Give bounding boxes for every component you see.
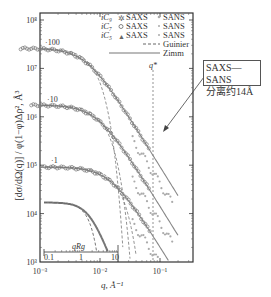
y-tick-labels: 10⁸ 10⁷ 10⁶ 10⁵ 10⁴ 10³ bbox=[26, 16, 37, 267]
sans-point bbox=[148, 167, 150, 169]
sans-point bbox=[171, 241, 173, 243]
sans-point bbox=[155, 213, 157, 215]
sans-point bbox=[162, 232, 164, 234]
offset-10: ·10 bbox=[47, 95, 58, 104]
legend-zimm: Zimm bbox=[163, 48, 184, 58]
sans-point bbox=[144, 155, 146, 157]
y-axis-label: [dσ/dΩ(q)] / φ(1−φ)Δρ², Å³ bbox=[13, 66, 24, 226]
sans-point bbox=[137, 192, 139, 194]
y-tick-1e5: 10⁵ bbox=[26, 161, 37, 170]
sans-point bbox=[133, 140, 135, 142]
sans-point bbox=[142, 234, 144, 236]
sans-point bbox=[142, 153, 144, 155]
x-tick-1e-2: 10⁻² bbox=[93, 267, 108, 276]
sans-point bbox=[171, 201, 173, 203]
sans-point bbox=[132, 135, 134, 137]
sans-point bbox=[144, 195, 146, 197]
sans-point bbox=[160, 227, 162, 229]
sans-point bbox=[159, 220, 161, 222]
sans-point bbox=[133, 223, 135, 225]
sans-point bbox=[132, 218, 134, 220]
sans-point bbox=[155, 253, 157, 255]
sans-point bbox=[150, 212, 152, 214]
sans-point bbox=[146, 241, 148, 243]
inset-tick-0.1: 0.1 bbox=[44, 253, 54, 262]
sans-point bbox=[169, 196, 171, 198]
y-tick-1e8: 10⁸ bbox=[26, 16, 37, 25]
x-tick-1e-3: 10⁻³ bbox=[33, 267, 48, 276]
sans-point bbox=[142, 193, 144, 195]
sans-point bbox=[157, 215, 159, 217]
zimm-fit-line bbox=[40, 49, 178, 196]
annotation-arrow bbox=[166, 77, 204, 128]
sans-point bbox=[137, 234, 139, 236]
sans-point bbox=[162, 192, 164, 194]
inset-guinier-curve bbox=[44, 203, 97, 251]
offset-1: ·1 bbox=[51, 156, 58, 165]
sans-point bbox=[146, 200, 148, 202]
sans-point bbox=[160, 187, 162, 189]
sans-point bbox=[168, 233, 170, 235]
circle-marker-icon bbox=[119, 25, 123, 29]
legend-saxs-3: SAXS bbox=[126, 30, 148, 40]
sans-point bbox=[157, 175, 159, 177]
scattering-chart: 10⁸ 10⁷ 10⁶ 10⁵ 10⁴ 10³ 10⁻³ 10⁻² 10⁻¹ q… bbox=[0, 0, 271, 297]
sans-point bbox=[157, 256, 159, 258]
sans-point bbox=[135, 229, 137, 231]
triangle-marker-icon: ▲ bbox=[118, 33, 125, 41]
guinier-fit-line bbox=[40, 49, 123, 247]
sans-point bbox=[135, 187, 137, 189]
x-ticks bbox=[100, 13, 160, 262]
sans-marker-icon bbox=[158, 25, 160, 27]
sans-point bbox=[150, 253, 152, 255]
legend: iC₉ iC₇ iC₅ ✲ ▲ SAXS SAXS SAXS SANS SANS… bbox=[101, 12, 189, 58]
inset-tick-1: 1 bbox=[79, 253, 83, 262]
sans-point bbox=[169, 235, 171, 237]
y-tick-1e7: 10⁷ bbox=[26, 64, 37, 73]
offset-100: ·100 bbox=[45, 38, 60, 47]
sans-marker-icon bbox=[158, 16, 161, 19]
sans-point bbox=[150, 172, 152, 174]
y-tick-1e3: 10³ bbox=[27, 258, 38, 267]
sans-point bbox=[168, 193, 170, 195]
sans-point bbox=[144, 236, 146, 238]
legend-ic5: iC₅ bbox=[101, 30, 112, 40]
sans-point bbox=[135, 147, 137, 149]
x-tick-labels: 10⁻³ 10⁻² 10⁻¹ bbox=[33, 267, 168, 276]
x-tick-1e-1: 10⁻¹ bbox=[153, 267, 168, 276]
x-axis-label: q, Å⁻¹ bbox=[101, 280, 123, 290]
y-tick-1e6: 10⁶ bbox=[26, 113, 37, 122]
sans-point bbox=[146, 160, 148, 162]
arrow-head-icon bbox=[163, 125, 169, 132]
star-marker-icon: ✲ bbox=[118, 14, 125, 23]
data-curves bbox=[19, 46, 178, 261]
guinier-fit-line bbox=[40, 167, 136, 255]
inset-label: qRg bbox=[72, 242, 85, 251]
annotation-box: SAXS—SANS 分离约14Å bbox=[203, 60, 261, 86]
sans-point bbox=[132, 176, 134, 178]
annotation-line-2: 分离约14Å bbox=[206, 86, 260, 98]
sans-point bbox=[159, 180, 161, 182]
inset-axis: 0.1 1 10 qRg bbox=[44, 242, 119, 262]
sans-marker-icon bbox=[158, 34, 160, 36]
sans-point bbox=[148, 207, 150, 209]
sans-point bbox=[137, 152, 139, 154]
zimm-fit-line bbox=[40, 167, 168, 261]
sans-point bbox=[133, 180, 135, 182]
offset-labels: ·100 ·10 ·1 bbox=[45, 38, 60, 165]
sans-point bbox=[155, 173, 157, 175]
inset-tick-10: 10 bbox=[111, 253, 119, 262]
y-tick-1e4: 10⁴ bbox=[26, 210, 37, 219]
guinier-fit-line bbox=[40, 105, 130, 258]
qstar-label: q* bbox=[149, 61, 157, 70]
sans-point bbox=[148, 248, 150, 250]
annotation-line-1: SAXS—SANS bbox=[206, 62, 260, 86]
